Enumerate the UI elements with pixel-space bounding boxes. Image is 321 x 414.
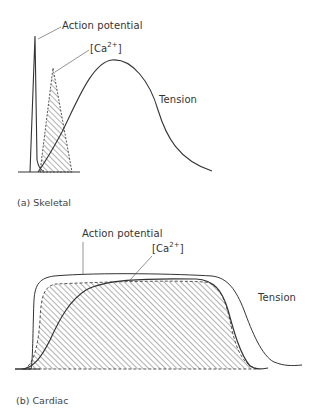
cardiac-calcium-leader — [130, 256, 152, 280]
skeletal-action-potential-label: Action potential — [62, 21, 143, 31]
cardiac-calcium-sup: 2+ — [169, 241, 180, 249]
skeletal-tension-label: Tension — [159, 95, 197, 105]
skeletal-action-potential-leader — [38, 27, 61, 39]
skeletal-calcium-leader — [55, 50, 89, 72]
skeletal-calcium-label: [Ca2+] — [90, 44, 122, 54]
skeletal-caption: (a) Skeletal — [17, 198, 71, 208]
cardiac-panel — [15, 242, 302, 369]
cardiac-tension-label: Tension — [258, 293, 296, 303]
skeletal-action-potential-curve — [30, 36, 44, 172]
skeletal-calcium-prefix: [Ca — [90, 43, 107, 54]
skeletal-calcium-sup: 2+ — [107, 41, 118, 49]
cardiac-calcium-suffix: ] — [180, 243, 184, 254]
cardiac-caption: (b) Cardiac — [16, 396, 68, 406]
cardiac-action-potential-label: Action potential — [82, 229, 163, 239]
cardiac-calcium-label: [Ca2+] — [152, 244, 184, 254]
skeletal-calcium-suffix: ] — [118, 43, 122, 54]
cardiac-calcium-prefix: [Ca — [152, 243, 169, 254]
cardiac-calcium-region — [24, 281, 258, 369]
